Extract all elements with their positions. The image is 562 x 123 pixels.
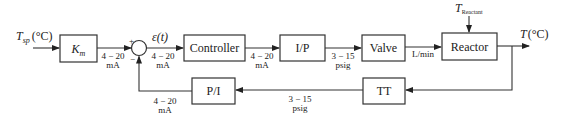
signal-controller-in-unit: mA	[156, 60, 170, 70]
valve-label: Valve	[370, 41, 397, 55]
error-label: ε(t)	[152, 30, 168, 44]
reactor-label: Reactor	[451, 40, 488, 54]
block-diagram: Tsp(°C) Km 4 − 20 mA + − ε(t) 4 − 20 mA …	[0, 0, 562, 123]
signal-valve-reactor-unit: L/min	[412, 49, 434, 59]
controller-label: Controller	[190, 41, 239, 55]
disturbance-label: TReactant	[455, 1, 483, 15]
signal-pi-sum-unit: mA	[158, 105, 172, 115]
output-label: T(°C)	[520, 27, 548, 41]
ip-label: I/P	[295, 41, 309, 55]
signal-ip-valve-unit: psig	[335, 60, 351, 70]
minus-sign: −	[130, 54, 135, 64]
tt-label: TT	[377, 84, 392, 98]
input-label: Tsp(°C)	[16, 29, 53, 45]
plus-sign: +	[129, 36, 134, 46]
pi-label: P/I	[206, 84, 220, 98]
signal-controller-ip-unit: mA	[255, 60, 269, 70]
signal-km-sum-unit: mA	[106, 60, 120, 70]
signal-tt-pi-unit: psig	[292, 103, 308, 113]
